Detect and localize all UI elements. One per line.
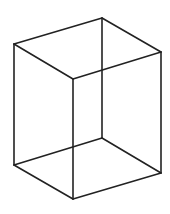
edge-top-back-left <box>14 18 102 44</box>
edge-top-left-front <box>14 44 73 79</box>
edge-bottom-front-right <box>73 173 161 199</box>
edge-bottom-left-front <box>14 165 73 199</box>
edge-top-front-right <box>73 52 161 79</box>
edge-bottom-back-left <box>14 138 102 165</box>
edge-bottom-back-right <box>102 138 161 173</box>
wireframe-cube-figure <box>0 0 170 214</box>
cube-edges <box>14 18 161 199</box>
edge-top-back-right <box>102 18 161 52</box>
